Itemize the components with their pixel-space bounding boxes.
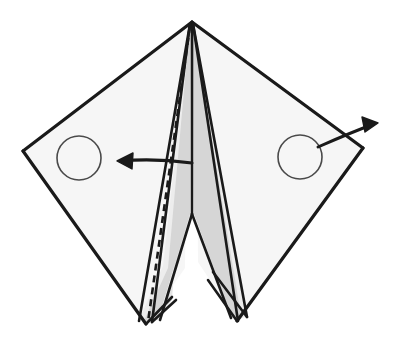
origami-figure [0,0,395,352]
origami-diagram-root [0,0,395,352]
